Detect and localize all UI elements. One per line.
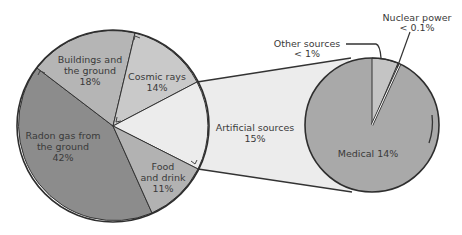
label-food-line2: and drink bbox=[141, 172, 186, 183]
label-buildings-line2: the ground bbox=[64, 65, 116, 76]
label-radon-line2: the ground bbox=[37, 141, 89, 152]
breakdown-pie bbox=[305, 58, 439, 192]
leader-nuclear-power bbox=[397, 32, 410, 68]
label-food-value: 11% bbox=[152, 183, 173, 194]
label-medical: Medical 14% bbox=[338, 148, 399, 159]
label-artificial-line1: Artificial sources bbox=[216, 122, 295, 133]
label-other-sources-value: < 1% bbox=[294, 48, 320, 59]
label-radon-value: 42% bbox=[52, 152, 73, 163]
leader-other-sources bbox=[346, 44, 381, 58]
radiation-sources-pie-chart: Buildings and the ground 18% Cosmic rays… bbox=[0, 0, 462, 235]
label-cosmic-line1: Cosmic rays bbox=[128, 71, 186, 82]
label-food-line1: Food bbox=[152, 161, 175, 172]
label-artificial-value: 15% bbox=[244, 133, 265, 144]
label-radon-line1: Radon gas from bbox=[25, 130, 100, 141]
label-nuclear-power-value: < 0.1% bbox=[399, 22, 434, 33]
label-buildings-value: 18% bbox=[79, 76, 100, 87]
label-cosmic-value: 14% bbox=[146, 82, 167, 93]
label-buildings-line1: Buildings and bbox=[58, 54, 122, 65]
